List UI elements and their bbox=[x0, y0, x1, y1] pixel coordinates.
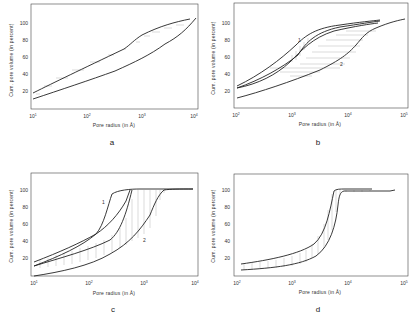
x-tick-label: 103 bbox=[140, 280, 148, 286]
hatch-region bbox=[36, 25, 184, 94]
x-tick-label: 101 bbox=[29, 113, 37, 119]
y-tick-label: 100 bbox=[222, 187, 231, 193]
panel-a: 100 80 60 40 20 Cum. pore volume (in per… bbox=[8, 4, 198, 147]
x-axis-label: Pore radius (in Å) bbox=[299, 289, 342, 295]
x-tick-label: 103 bbox=[288, 112, 296, 118]
curve-upper bbox=[241, 189, 372, 264]
panel-label: c bbox=[111, 305, 115, 314]
plot-frame bbox=[31, 4, 198, 109]
y-tick-label: 20 bbox=[224, 88, 230, 94]
y-tick-label: 60 bbox=[224, 221, 230, 227]
y-tick-label: 40 bbox=[22, 238, 28, 244]
plot-frame bbox=[234, 3, 408, 108]
x-tick-label: 102 bbox=[232, 112, 240, 118]
x-tick-label: 102 bbox=[233, 280, 241, 286]
x-tick-label: 103 bbox=[288, 280, 296, 286]
y-tick-label: 40 bbox=[224, 71, 230, 77]
y-tick-label: 20 bbox=[22, 255, 28, 261]
x-tick-label: 102 bbox=[83, 113, 91, 119]
y-tick-label: 100 bbox=[20, 20, 29, 26]
panel-label: d bbox=[316, 305, 320, 314]
x-axis-label: Pore radius (in Å) bbox=[93, 290, 136, 296]
y-axis-label: Cum. pore volume (in percent) bbox=[210, 21, 216, 94]
curve-annotation-1: 1 bbox=[102, 199, 105, 205]
panel-b: 1 2 100 80 60 40 20 Cum. pore volume (in… bbox=[210, 3, 408, 147]
y-tick-label: 20 bbox=[224, 255, 230, 261]
curve-2 bbox=[34, 189, 193, 276]
y-tick-label: 80 bbox=[224, 204, 230, 210]
y-tick-label: 80 bbox=[224, 37, 230, 43]
curve-1-lower bbox=[237, 23, 378, 88]
curve-upper bbox=[33, 19, 190, 93]
curve-lower bbox=[241, 190, 395, 270]
x-tick-label: 105 bbox=[400, 280, 408, 286]
x-tick-label: 104 bbox=[344, 280, 352, 286]
y-axis: 100 80 60 40 20 Cum. pore volume (in per… bbox=[210, 187, 230, 263]
panel-c: 1 2 100 80 60 40 20 Cum. pore volume (in… bbox=[8, 173, 199, 314]
y-tick-label: 40 bbox=[224, 238, 230, 244]
curve-annotation-2: 2 bbox=[143, 237, 146, 243]
y-tick-label: 60 bbox=[22, 54, 28, 60]
curve-annotation-2: 2 bbox=[340, 61, 343, 67]
y-tick-label: 60 bbox=[224, 54, 230, 60]
panel-label: b bbox=[316, 138, 321, 147]
x-tick-label: 105 bbox=[400, 112, 408, 118]
y-axis-label: Cum. pore volume (in percent) bbox=[210, 189, 216, 262]
y-axis-label: Cum. pore volume (in percent) bbox=[8, 189, 14, 262]
x-axis: 102 103 104 105 Pore radius (in Å) bbox=[233, 280, 408, 295]
x-tick-label: 104 bbox=[191, 280, 199, 286]
y-axis: 100 80 60 40 20 Cum. pore volume (in per… bbox=[8, 20, 28, 97]
y-axis: 100 80 60 40 20 Cum. pore volume (in per… bbox=[8, 187, 28, 263]
panel-label: a bbox=[110, 138, 115, 147]
x-axis: 101 102 103 104 Pore radius (in Å) bbox=[29, 113, 198, 128]
curve-1-lower bbox=[34, 190, 130, 266]
x-tick-label: 104 bbox=[344, 112, 352, 118]
curve-middle bbox=[34, 190, 132, 266]
curve-2 bbox=[237, 19, 405, 98]
panel-d: 100 80 60 40 20 Cum. pore volume (in per… bbox=[210, 174, 408, 314]
y-tick-label: 100 bbox=[222, 20, 231, 26]
x-tick-label: 101 bbox=[30, 280, 38, 286]
x-axis: 102 103 104 105 Pore radius (in Å) bbox=[232, 112, 408, 127]
figure: 100 80 60 40 20 Cum. pore volume (in per… bbox=[0, 0, 412, 315]
curve-1-upper bbox=[34, 189, 193, 262]
y-tick-label: 20 bbox=[22, 88, 28, 94]
hatch-region bbox=[244, 190, 370, 270]
y-tick-label: 100 bbox=[20, 187, 29, 193]
x-axis-label: Pore radius (in Å) bbox=[299, 121, 342, 127]
y-tick-label: 80 bbox=[22, 37, 28, 43]
x-tick-label: 104 bbox=[190, 113, 198, 119]
y-tick-label: 60 bbox=[22, 221, 28, 227]
x-tick-label: 103 bbox=[138, 113, 146, 119]
y-axis-label: Cum. pore volume (in percent) bbox=[8, 23, 14, 96]
y-tick-label: 80 bbox=[22, 204, 28, 210]
y-axis: 100 80 60 40 20 Cum. pore volume (in per… bbox=[210, 20, 230, 95]
x-tick-label: 102 bbox=[85, 280, 93, 286]
curve-lower bbox=[33, 18, 196, 99]
x-axis: 101 102 103 104 Pore radius (in Å) bbox=[30, 280, 199, 296]
x-axis-label: Pore radius (in Å) bbox=[93, 122, 136, 128]
curve-annotation-1: 1 bbox=[298, 37, 301, 43]
y-tick-label: 40 bbox=[22, 71, 28, 77]
